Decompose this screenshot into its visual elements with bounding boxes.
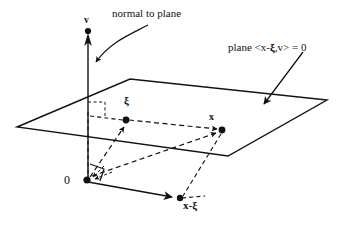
plane-equation-suffix: ,v> = 0 xyxy=(275,41,307,53)
origin-label: 0 xyxy=(64,174,70,186)
origin-point-dot xyxy=(83,176,90,183)
dashed-line-x-to-x-minus-xi xyxy=(183,134,221,196)
v-axis-label: v xyxy=(84,16,89,26)
plane-parallelogram xyxy=(17,79,327,156)
v-point-dot xyxy=(85,28,91,34)
dashed-vector-origin-to-xi xyxy=(90,127,124,177)
dashed-line-xi-to-x xyxy=(129,120,217,129)
normal-to-plane-callout-arrow xyxy=(96,25,148,62)
x-minus-xi-vector-label: x-ξ xyxy=(183,200,197,211)
vector-projection-diagram: normal to plane plane <x-ξ,v> = 0 v ξ x … xyxy=(0,0,347,233)
solid-vector-origin-to-x-minus-xi xyxy=(88,182,172,197)
xi-point-dot xyxy=(123,117,130,124)
origin-incoming-arrow-b xyxy=(95,172,112,179)
x-minus-xi-prefix: x- xyxy=(183,199,192,211)
x-minus-xi-xi-glyph: ξ xyxy=(192,199,197,211)
x-point-dot xyxy=(219,127,226,134)
plane-v-axis-right-angle-icon xyxy=(88,102,105,116)
normal-to-plane-label: normal to plane xyxy=(112,8,181,19)
dashed-line-axis-to-xi xyxy=(90,116,123,120)
diagram-canvas xyxy=(0,0,347,233)
dashed-line-beyond-x-minus-xi xyxy=(182,196,205,198)
x-point-label: x xyxy=(209,112,214,122)
plane-equation-prefix: plane <x- xyxy=(228,41,270,53)
xi-point-label: ξ xyxy=(124,95,129,106)
plane-equation-label: plane <x-ξ,v> = 0 xyxy=(228,42,307,53)
